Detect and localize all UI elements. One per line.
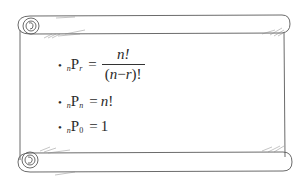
bullet: • bbox=[58, 121, 62, 133]
post-subscript: 0 bbox=[79, 126, 83, 135]
rhs-factorial: ! bbox=[108, 93, 113, 110]
bullet: • bbox=[58, 59, 62, 71]
numerator: n! bbox=[114, 46, 133, 63]
equals-sign: = bbox=[89, 93, 97, 110]
permutation-symbol: P bbox=[71, 118, 79, 135]
formula-permutation-zero: • n P 0 = 1 bbox=[58, 118, 108, 135]
pre-subscript: n bbox=[67, 101, 71, 110]
pre-subscript: n bbox=[67, 64, 71, 73]
rhs-var: n bbox=[101, 93, 109, 110]
formula-permutation-general: • n P r = n! (n−r)! bbox=[58, 46, 145, 83]
denominator: (n−r)! bbox=[102, 66, 145, 83]
equals-sign: = bbox=[88, 56, 96, 73]
equals-sign: = bbox=[89, 118, 97, 135]
post-subscript: r bbox=[79, 64, 82, 73]
fraction: n! (n−r)! bbox=[102, 46, 145, 83]
rhs-value: 1 bbox=[101, 118, 109, 135]
paren-close-factorial: )! bbox=[132, 66, 142, 82]
pre-subscript: n bbox=[67, 126, 71, 135]
formula-permutation-n: • n P n = n! bbox=[58, 93, 113, 110]
permutation-symbol: P bbox=[71, 93, 79, 110]
post-subscript: n bbox=[79, 101, 83, 110]
minus-sign: − bbox=[117, 66, 125, 82]
permutation-symbol: P bbox=[71, 56, 79, 73]
bullet: • bbox=[58, 96, 62, 108]
scroll-illustration bbox=[0, 0, 307, 182]
fraction-bar bbox=[102, 64, 145, 65]
